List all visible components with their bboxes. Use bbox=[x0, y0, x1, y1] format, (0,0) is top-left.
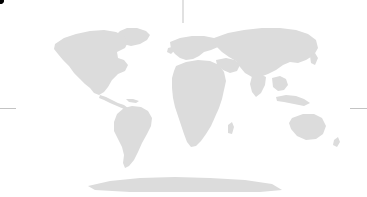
new-zealand-shape bbox=[333, 137, 340, 147]
south-america-shape bbox=[114, 106, 152, 168]
world-map-canvas bbox=[0, 0, 367, 197]
antarctica-shape bbox=[88, 177, 282, 192]
africa-shape bbox=[172, 60, 226, 147]
india-shape bbox=[250, 74, 266, 97]
world-map-figure bbox=[0, 0, 367, 197]
flight-route bbox=[0, 0, 4, 4]
destination-marker[interactable] bbox=[0, 0, 4, 4]
landmass-group bbox=[54, 28, 340, 192]
central-america-shape bbox=[99, 95, 128, 109]
southeast-asia-shape bbox=[272, 76, 288, 91]
caribbean-shape bbox=[126, 99, 139, 103]
europe-shape bbox=[170, 36, 220, 60]
australia-shape bbox=[289, 114, 326, 140]
north-america-shape bbox=[54, 30, 128, 95]
madagascar-shape bbox=[228, 122, 234, 134]
indonesia-shape bbox=[276, 95, 310, 106]
